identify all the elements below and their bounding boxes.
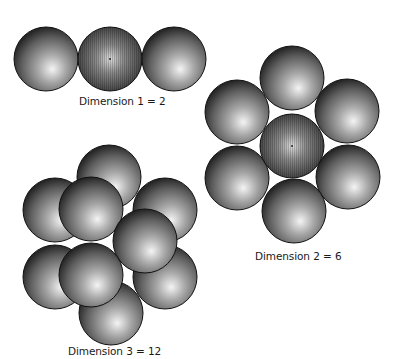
sphere: [262, 179, 326, 243]
center-point: [291, 145, 293, 147]
sphere: [316, 145, 380, 209]
sphere: [260, 46, 324, 110]
center-point: [109, 58, 111, 60]
sphere: [14, 27, 78, 91]
sphere: [59, 243, 123, 307]
kissing-number-diagram: [0, 0, 400, 359]
dim2-sphere-group: [205, 46, 380, 243]
sphere: [205, 80, 269, 144]
sphere: [59, 177, 123, 241]
sphere: [113, 209, 177, 273]
sphere: [142, 27, 206, 91]
dim1-sphere-group: [14, 27, 206, 91]
dimension-1-label: Dimension 1 = 2: [79, 95, 165, 107]
dim3-sphere-group: [23, 145, 197, 345]
dimension-2-label: Dimension 2 = 6: [255, 250, 341, 262]
sphere: [315, 79, 379, 143]
sphere: [205, 146, 269, 210]
dimension-3-label: Dimension 3 = 12: [68, 345, 161, 357]
